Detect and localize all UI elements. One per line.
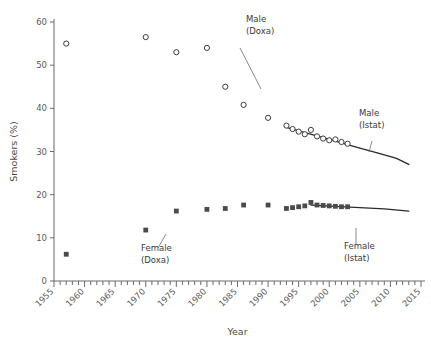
data-point-female-doxa <box>143 228 148 233</box>
data-point-male-doxa <box>174 50 179 55</box>
data-point-male-istat <box>308 127 313 132</box>
y-tick-label: 40 <box>36 103 47 113</box>
annotation-label-female-doxa-line1: Female <box>141 243 172 253</box>
data-point-female-doxa <box>174 209 179 214</box>
x-tick-label: 1975 <box>155 286 177 308</box>
y-tick-label: 30 <box>36 147 47 157</box>
x-tick-label: 2000 <box>308 286 330 308</box>
data-point-female-istat <box>339 204 344 209</box>
annotation-label-male-doxa-line1: Male <box>246 14 266 24</box>
y-tick-label: 10 <box>36 233 47 243</box>
data-point-female-doxa <box>223 206 228 211</box>
y-axis-title: Smokers (%) <box>8 121 19 181</box>
data-point-female-doxa <box>266 203 271 208</box>
x-tick-label: 1990 <box>247 286 269 308</box>
data-point-male-istat <box>290 126 295 131</box>
data-point-male-doxa <box>241 102 246 107</box>
data-point-female-istat <box>290 205 295 210</box>
trend-line-female-istat-trend <box>311 205 409 211</box>
y-tick-label: 50 <box>36 60 47 70</box>
x-tick-label: 1995 <box>278 286 300 308</box>
data-point-male-istat <box>327 138 332 143</box>
annotation-label-female-istat-line1: Female <box>344 241 375 251</box>
x-tick-label: 1985 <box>217 286 239 308</box>
annotation-label-female-doxa-line2: (Doxa) <box>141 255 169 265</box>
data-point-female-istat <box>309 200 314 205</box>
x-tick-label: 2010 <box>369 286 391 308</box>
data-point-male-doxa <box>265 115 270 120</box>
annotation-leader-male-istat <box>369 141 372 152</box>
data-point-male-istat <box>302 132 307 137</box>
data-point-female-istat <box>284 206 289 211</box>
data-point-male-istat <box>321 136 326 141</box>
data-point-female-doxa <box>241 203 246 208</box>
data-point-female-istat <box>345 204 350 209</box>
annotation-label-male-doxa-line2: (Doxa) <box>246 26 274 36</box>
data-point-male-istat <box>284 123 289 128</box>
y-tick-label: 20 <box>36 190 47 200</box>
x-tick-label: 1960 <box>64 286 86 308</box>
data-point-male-doxa <box>64 41 69 46</box>
data-point-male-istat <box>333 137 338 142</box>
annotation-label-male-istat-line2: (Istat) <box>359 120 384 130</box>
data-point-female-istat <box>333 204 338 209</box>
annotation-label-female-istat-line2: (Istat) <box>344 253 369 263</box>
data-point-female-istat <box>296 204 301 209</box>
data-point-male-istat <box>296 129 301 134</box>
figure-container: 0102030405060195519601965197019751980198… <box>0 0 431 344</box>
data-point-female-istat <box>327 203 332 208</box>
data-point-male-istat <box>314 134 319 139</box>
data-point-male-doxa <box>223 84 228 89</box>
annotation-label-male-istat-line1: Male <box>359 108 379 118</box>
x-tick-label: 1970 <box>125 286 147 308</box>
data-point-male-doxa <box>143 35 148 40</box>
x-tick-label: 1980 <box>186 286 208 308</box>
y-tick-label: 60 <box>36 17 47 27</box>
x-tick-label: 1955 <box>33 286 55 308</box>
data-point-female-istat <box>321 203 326 208</box>
x-tick-label: 2015 <box>400 286 422 308</box>
y-tick-label: 0 <box>42 276 47 286</box>
data-point-female-istat <box>302 203 307 208</box>
smokers-prevalence-chart: 0102030405060195519601965197019751980198… <box>0 0 431 344</box>
data-point-male-istat <box>345 141 350 146</box>
data-point-female-doxa <box>64 252 69 257</box>
x-axis-title: Year <box>226 326 247 337</box>
data-point-male-istat <box>339 139 344 144</box>
data-point-female-doxa <box>205 207 210 212</box>
x-tick-label: 1965 <box>94 286 116 308</box>
annotation-leader-male-doxa <box>240 48 261 89</box>
x-tick-label: 2005 <box>339 286 361 308</box>
data-point-female-istat <box>315 203 320 208</box>
data-point-male-doxa <box>204 45 209 50</box>
